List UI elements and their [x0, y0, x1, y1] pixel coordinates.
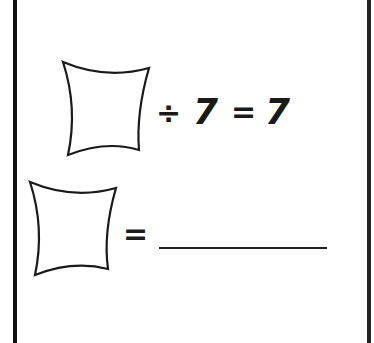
blank-box-1 [58, 58, 154, 160]
divisor: 7 [193, 94, 218, 130]
answer-line[interactable] [159, 247, 327, 249]
divide-sign: ÷ [156, 98, 181, 128]
worksheet-border-left [13, 0, 17, 343]
equals-sign-1: = [231, 97, 256, 127]
result: 7 [265, 94, 290, 130]
worksheet-border-right [367, 0, 371, 343]
equals-sign-2: = [123, 219, 148, 249]
blank-box-2 [25, 178, 121, 280]
